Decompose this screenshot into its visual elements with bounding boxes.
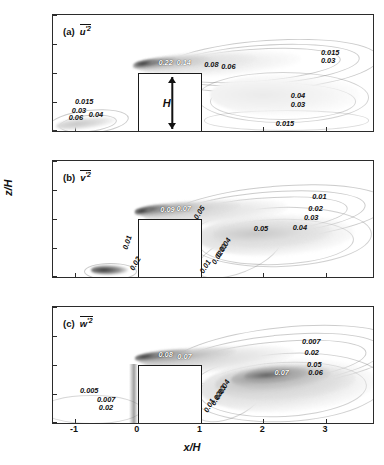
panel-a-plot: H0.220.140.080.060.0150.030.040.030.0150… — [53, 15, 373, 131]
contour-fill — [137, 49, 257, 76]
y-tick-mark — [53, 307, 57, 308]
building-obstacle — [138, 219, 203, 277]
contour-value-label: 0.005 — [80, 386, 99, 395]
contour-value-label: 0.01 — [312, 192, 326, 201]
contour-line — [186, 348, 373, 423]
contour-value-label: 0.08 — [204, 60, 218, 69]
y-tick-mark — [53, 219, 57, 220]
y-tick-mark — [53, 422, 57, 423]
panel-b-letter: (b) — [63, 172, 75, 183]
contour-value-label: 0.03 — [291, 100, 305, 109]
panel-c-letter: (c) — [63, 318, 75, 329]
x-tick-label: -1 — [70, 424, 78, 434]
contour-value-label: 0.22 — [158, 58, 172, 67]
panel-a-symbol: u′2 — [80, 24, 91, 37]
x-tick-mark — [75, 127, 76, 131]
x-tick-mark — [263, 273, 264, 277]
x-tick-label: 3 — [322, 424, 327, 434]
building-height-label: H — [163, 97, 171, 109]
contour-line — [210, 83, 356, 120]
x-axis-label: x/H — [0, 441, 384, 453]
contour-line — [197, 72, 368, 123]
contour-fill — [214, 359, 356, 403]
panel-b-symbol: v′2 — [80, 170, 91, 183]
contour-fill — [91, 265, 129, 275]
panel-c: 0.080.070.0070.020.050.060.070.040.030.0… — [52, 306, 374, 424]
x-tick-label: 0 — [134, 424, 139, 434]
contour-value-label: 0.09 — [160, 205, 174, 214]
contour-value-label: 0.04 — [293, 223, 307, 232]
y-tick-mark — [53, 394, 57, 395]
contour-value-label: 0.03 — [321, 56, 335, 65]
contour-value-label: 0.02 — [308, 204, 322, 213]
building-obstacle — [138, 365, 203, 423]
x-tick-mark — [263, 419, 264, 423]
contour-value-label: 0.08 — [158, 350, 172, 359]
y-tick-mark — [53, 365, 57, 366]
panel-a-letter: (a) — [63, 26, 75, 37]
figure-canvas: z/H H0.220.140.080.060.0150.030.040.030.… — [0, 0, 384, 465]
y-tick-mark — [53, 44, 57, 45]
contour-fill — [210, 74, 361, 116]
contour-fill — [134, 58, 157, 68]
contour-value-label: 0.02 — [305, 348, 319, 357]
contour-value-label: 0.05 — [254, 224, 268, 233]
y-tick-mark — [53, 248, 57, 249]
panel-a-tag: (a)u′2 — [63, 24, 91, 37]
y-tick-mark — [53, 130, 57, 131]
y-tick-mark — [53, 15, 57, 16]
x-tick-label: 1 — [197, 424, 202, 434]
contour-value-label: 0.06 — [69, 113, 83, 122]
contour-value-label: 0.007 — [302, 337, 321, 346]
x-tick-mark — [75, 273, 76, 277]
y-tick-mark — [53, 190, 57, 191]
y-tick-mark — [53, 336, 57, 337]
y-tick-mark — [53, 276, 57, 277]
contour-value-label: 0.07 — [274, 368, 288, 377]
contour-value-label: 0.015 — [321, 48, 340, 57]
contour-value-label: 0.14 — [177, 58, 191, 67]
contour-value-label: 0.07 — [177, 352, 191, 361]
panel-b-plot: 0.090.070.050.050.040.010.020.030.040.03… — [53, 161, 373, 277]
contour-value-label: 0.03 — [304, 213, 318, 222]
contour-separation-spike — [129, 364, 138, 423]
y-tick-mark — [53, 73, 57, 74]
x-tick-mark — [263, 127, 264, 131]
panel-c-tag: (c)w′2 — [63, 316, 93, 329]
contour-fill — [56, 113, 117, 131]
y-axis-label: z/H — [2, 180, 14, 197]
contour-value-label: 0.04 — [89, 110, 103, 119]
contour-value-label: 0.04 — [291, 91, 305, 100]
x-tick-mark — [326, 419, 327, 423]
x-tick-mark — [326, 273, 327, 277]
x-tick-mark — [75, 419, 76, 423]
x-tick-mark — [326, 127, 327, 131]
x-tick-label: 2 — [260, 424, 265, 434]
contour-value-label: 0.06 — [308, 368, 322, 377]
contour-value-label: 0.06 — [221, 62, 235, 71]
panel-a: H0.220.140.080.060.0150.030.040.030.0150… — [52, 14, 374, 132]
panel-c-plot: 0.080.070.0070.020.050.060.070.040.030.0… — [53, 307, 373, 423]
panel-c-symbol: w′2 — [80, 316, 93, 329]
y-tick-mark — [53, 161, 57, 162]
contour-value-label: 0.015 — [276, 119, 295, 128]
contour-value-label: 0.01 — [121, 235, 134, 251]
contour-fill — [135, 206, 154, 214]
panel-b: 0.090.070.050.050.040.010.020.030.040.03… — [52, 160, 374, 278]
contour-value-label: 0.02 — [99, 403, 113, 412]
y-tick-mark — [53, 102, 57, 103]
contour-value-label: 0.015 — [75, 97, 94, 106]
panel-b-tag: (b)v′2 — [63, 170, 91, 183]
contour-value-label: 0.07 — [177, 204, 191, 213]
